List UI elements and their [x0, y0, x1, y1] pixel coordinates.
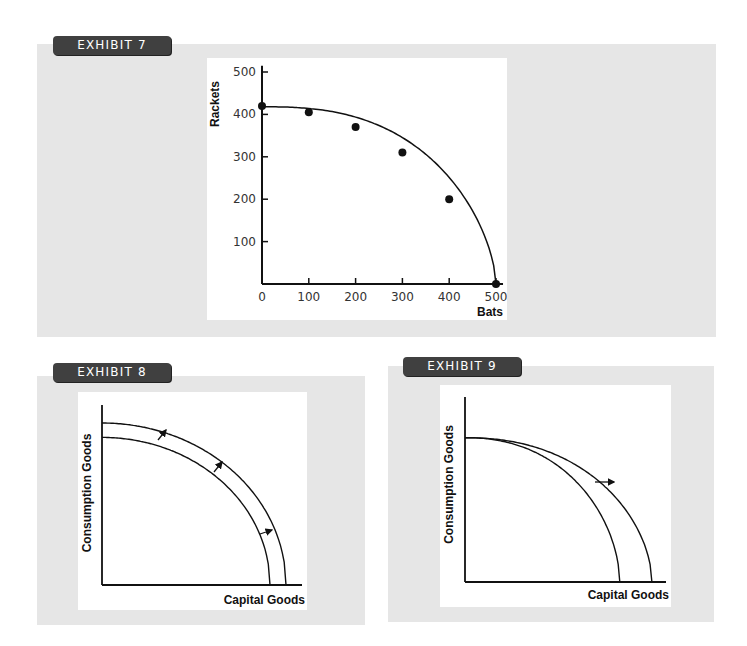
exhibit-9-svg: Consumption GoodsCapital Goods [440, 385, 671, 607]
x-tick-label: 100 [297, 290, 320, 304]
exhibit-7-svg: 1002003004005000100200300400500RacketsBa… [207, 58, 507, 320]
ppf-curve [262, 107, 496, 284]
original-curve [465, 438, 620, 582]
y-tick-label: 100 [233, 235, 256, 249]
exhibit-8-svg: Consumption GoodsCapital Goods [78, 392, 307, 610]
data-point [492, 280, 500, 288]
y-axis-title: Rackets [208, 81, 222, 127]
data-point [352, 123, 360, 131]
exhibit-7-label: EXHIBIT 7 [53, 36, 171, 55]
y-tick-label: 400 [233, 107, 256, 121]
data-point [258, 102, 266, 110]
x-tick-label: 400 [438, 290, 461, 304]
y-tick-label: 500 [233, 65, 256, 79]
y-axis-title: Consumption Goods [80, 433, 94, 552]
x-axis-title: Bats [477, 305, 503, 319]
exhibit-9-label: EXHIBIT 9 [403, 357, 521, 376]
shifted-curve [465, 438, 652, 582]
x-tick-label: 200 [344, 290, 367, 304]
y-axis-title: Consumption Goods [442, 425, 456, 544]
x-axis-title: Capital Goods [224, 593, 306, 607]
x-tick-label: 0 [258, 290, 266, 304]
shift-arrow-icon [214, 462, 222, 472]
x-tick-label: 300 [391, 290, 414, 304]
y-tick-label: 200 [233, 192, 256, 206]
y-tick-label: 300 [233, 150, 256, 164]
data-point [305, 108, 313, 116]
x-axis-title: Capital Goods [588, 588, 670, 602]
exhibit-8-chart: Consumption GoodsCapital Goods [78, 392, 307, 610]
exhibit-9-chart: Consumption GoodsCapital Goods [440, 385, 671, 607]
original-curve [102, 437, 270, 585]
shift-arrow-icon [260, 530, 272, 534]
shifted-curve [102, 423, 286, 585]
exhibit-8-label: EXHIBIT 8 [53, 363, 171, 382]
data-point [398, 149, 406, 157]
exhibit-7-chart: 1002003004005000100200300400500RacketsBa… [207, 58, 507, 320]
data-point [445, 195, 453, 203]
x-tick-label: 500 [485, 290, 507, 304]
